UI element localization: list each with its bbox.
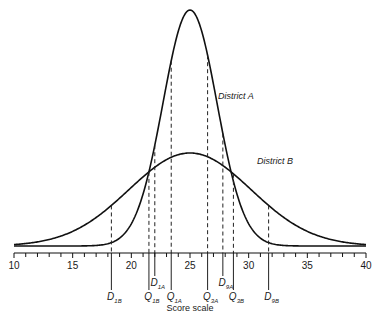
tick-label: 20: [126, 260, 137, 271]
tick-label: 40: [360, 260, 371, 271]
axis-title: Score scale: [166, 303, 213, 313]
tick-label: 30: [243, 260, 254, 271]
x-axis: [14, 253, 366, 258]
distribution-diagram: 10152025303540 D1BQ1BD1AQ1AQ3AD9AQ3BD9B …: [0, 0, 379, 323]
tick-label: 25: [184, 260, 195, 271]
tick-label: 10: [8, 260, 19, 271]
marker-label-d9a: D9A: [219, 277, 234, 290]
tick-label: 35: [302, 260, 313, 271]
marker-label-d1a: D1A: [151, 277, 166, 290]
plot-area: [0, 0, 379, 323]
district-b-label: District B: [257, 156, 293, 166]
marker-label-d1b: D1B: [107, 291, 122, 304]
curves: [14, 10, 366, 246]
district-a-label: District A: [218, 91, 254, 101]
marker-label-q3b: Q3B: [229, 291, 244, 304]
marker-label-q1b: Q1B: [144, 291, 159, 304]
curve-district-b: [14, 153, 366, 245]
curve-district-a: [14, 10, 366, 246]
marker-label-d9b: D9B: [264, 291, 279, 304]
tick-label: 15: [67, 260, 78, 271]
